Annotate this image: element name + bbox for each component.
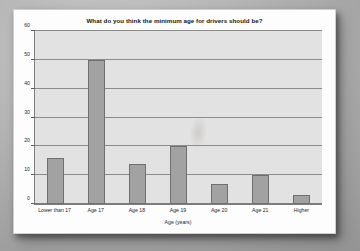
x-axis-tick-label: Age 20 xyxy=(199,207,240,213)
bar-series xyxy=(35,31,322,204)
bar-slot xyxy=(158,31,199,204)
y-axis-tick-label: 60 xyxy=(24,22,30,28)
bar-age-21[interactable] xyxy=(252,175,269,204)
plot-area: 0102030405060 xyxy=(34,31,322,205)
x-axis-title: Age (years) xyxy=(34,219,322,225)
bar-slot xyxy=(199,31,240,204)
x-axis-tick-label: Age 19 xyxy=(157,207,198,213)
bar-lower-than-17[interactable] xyxy=(47,158,64,204)
y-axis-tick-label: 0 xyxy=(27,195,30,201)
bar-higher[interactable] xyxy=(293,195,310,204)
y-axis-tick-label: 10 xyxy=(24,166,30,172)
x-axis-tick-label: Higher xyxy=(281,207,322,213)
bar-slot xyxy=(281,31,322,204)
x-axis-tick-label: Age 21 xyxy=(240,207,281,213)
y-axis-tick-label: 40 xyxy=(24,80,30,86)
x-axis-tick-label: Lower than 17 xyxy=(34,207,75,213)
plot-area-wrapper: 0102030405060 xyxy=(34,31,322,205)
bar-slot xyxy=(117,31,158,204)
bar-slot xyxy=(76,31,117,204)
bar-slot xyxy=(240,31,281,204)
bar-age-18[interactable] xyxy=(129,164,146,204)
chart-card: What do you think the minimum age for dr… xyxy=(13,9,336,234)
x-axis-tick-label: Age 18 xyxy=(116,207,157,213)
bar-age-19[interactable] xyxy=(170,146,187,204)
y-axis-title: Number of people xyxy=(12,0,22,41)
x-axis-tick-label: Age 17 xyxy=(75,207,116,213)
bar-age-20[interactable] xyxy=(211,184,228,204)
y-axis-tick-label: 20 xyxy=(24,137,30,143)
x-axis-labels: Lower than 17Age 17Age 18Age 19Age 20Age… xyxy=(34,207,322,213)
bar-slot xyxy=(35,31,76,204)
y-axis-tick-label: 30 xyxy=(24,109,30,115)
bar-age-17[interactable] xyxy=(88,60,105,204)
y-axis-tick-label: 50 xyxy=(24,51,30,57)
page-title: What do you think the minimum age for dr… xyxy=(14,17,335,24)
